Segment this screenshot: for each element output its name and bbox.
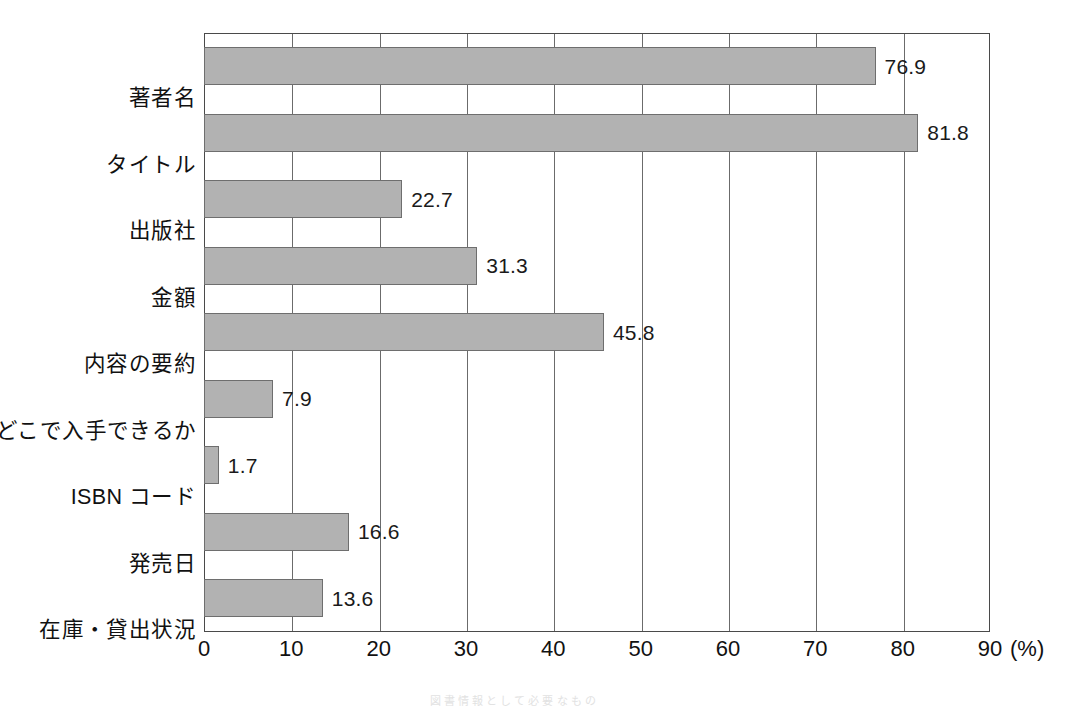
x-tick-label: 50 xyxy=(628,638,652,660)
x-tick-label: 20 xyxy=(366,638,390,660)
bar xyxy=(204,47,876,85)
bar-row: 81.8 xyxy=(204,114,990,152)
bar xyxy=(204,579,323,617)
x-axis: 0 10 20 30 40 50 60 70 80 90 (%) xyxy=(204,638,990,672)
bar-row: 45.8 xyxy=(204,313,990,351)
bar-chart: 著者名 タイトル 出版社 金額 内容の要約 どこで入手できるか ISBN コード… xyxy=(0,0,1072,707)
bar xyxy=(204,180,402,218)
bar-value-label: 76.9 xyxy=(885,56,927,77)
category-label: 出版社 xyxy=(0,221,196,243)
category-label: 発売日 xyxy=(0,554,196,576)
bars-layer: 76.9 81.8 22.7 31.3 45.8 7.9 1.7 xyxy=(204,33,990,632)
category-label: タイトル xyxy=(0,155,196,177)
category-label: ISBN コード xyxy=(0,487,196,509)
bar xyxy=(204,247,477,285)
bar-row: 1.7 xyxy=(204,446,990,484)
category-label: 金額 xyxy=(0,288,196,310)
bar-row: 22.7 xyxy=(204,180,990,218)
cropped-caption: 図 書 情 報 と し て 必 要 な も の xyxy=(430,694,760,706)
x-tick-label: 0 xyxy=(198,638,210,660)
category-label: 内容の要約 xyxy=(0,354,196,376)
x-tick-label: 30 xyxy=(454,638,478,660)
x-tick-label: 60 xyxy=(716,638,740,660)
bar xyxy=(204,513,349,551)
bar-value-label: 1.7 xyxy=(228,455,258,476)
bar-row: 16.6 xyxy=(204,513,990,551)
category-label: 在庫・貸出状況 xyxy=(0,620,196,642)
bar-value-label: 45.8 xyxy=(613,322,655,343)
bar xyxy=(204,446,219,484)
bar-row: 7.9 xyxy=(204,380,990,418)
x-tick-label: 90 xyxy=(978,638,1002,660)
bar-value-label: 81.8 xyxy=(927,122,969,143)
bar-row: 76.9 xyxy=(204,47,990,85)
bar-row: 31.3 xyxy=(204,247,990,285)
x-tick-label: 70 xyxy=(803,638,827,660)
bar xyxy=(204,114,918,152)
bar xyxy=(204,313,604,351)
category-labels: 著者名 タイトル 出版社 金額 内容の要約 どこで入手できるか ISBN コード… xyxy=(0,33,200,632)
x-tick-label: 80 xyxy=(890,638,914,660)
category-label: 著者名 xyxy=(0,88,196,110)
x-tick-label: 10 xyxy=(279,638,303,660)
category-label: どこで入手できるか xyxy=(0,421,196,443)
x-axis-unit-label: (%) xyxy=(1010,638,1044,660)
bar-value-label: 16.6 xyxy=(358,521,400,542)
x-tick-label: 40 xyxy=(541,638,565,660)
bar-value-label: 7.9 xyxy=(282,388,312,409)
bar xyxy=(204,380,273,418)
bar-value-label: 31.3 xyxy=(486,255,528,276)
bar-value-label: 13.6 xyxy=(332,588,374,609)
bar-value-label: 22.7 xyxy=(411,189,453,210)
bar-row: 13.6 xyxy=(204,579,990,617)
